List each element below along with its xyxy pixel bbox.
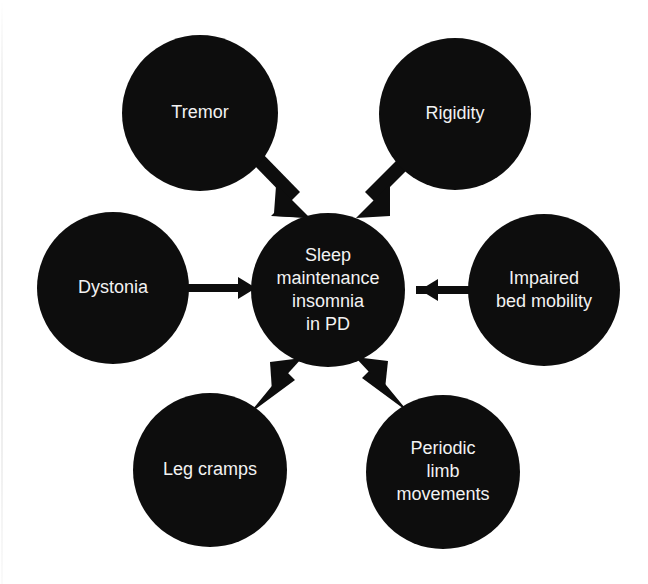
center-label-line-3: insomnia	[292, 291, 365, 311]
concept-map-diagram: Tremor Rigidity Dystonia Impaired bed mo…	[0, 0, 648, 584]
node-sleep-maintenance-insomnia[interactable]: Sleep maintenance insomnia in PD	[251, 213, 405, 367]
node-periodic-limb-movements-label-line-3: movements	[396, 484, 489, 504]
node-impaired-bed-mobility-label-line-2: bed mobility	[496, 291, 592, 311]
node-impaired-bed-mobility[interactable]: Impaired bed mobility	[468, 214, 620, 366]
node-dystonia-label: Dystonia	[78, 277, 149, 297]
edge-impaired-bed-mobility-to-center	[416, 279, 472, 301]
node-rigidity-label: Rigidity	[425, 103, 484, 123]
center-label-line-1: Sleep	[305, 245, 351, 265]
node-tremor-label: Tremor	[171, 102, 228, 122]
center-label-line-4: in PD	[306, 314, 350, 334]
node-periodic-limb-movements[interactable]: Periodic limb movements	[366, 395, 520, 549]
node-tremor[interactable]: Tremor	[122, 35, 278, 191]
node-periodic-limb-movements-label-line-1: Periodic	[410, 438, 475, 458]
node-leg-cramps[interactable]: Leg cramps	[133, 393, 287, 547]
center-label-line-2: maintenance	[276, 268, 379, 288]
node-impaired-bed-mobility-label-line-1: Impaired	[509, 268, 579, 288]
edge-dystonia-to-center	[186, 277, 256, 299]
node-dystonia[interactable]: Dystonia	[37, 212, 189, 364]
node-rigidity[interactable]: Rigidity	[379, 38, 531, 190]
diagram-canvas: Tremor Rigidity Dystonia Impaired bed mo…	[0, 0, 648, 584]
node-periodic-limb-movements-label-line-2: limb	[426, 461, 459, 481]
node-leg-cramps-label: Leg cramps	[163, 459, 257, 479]
